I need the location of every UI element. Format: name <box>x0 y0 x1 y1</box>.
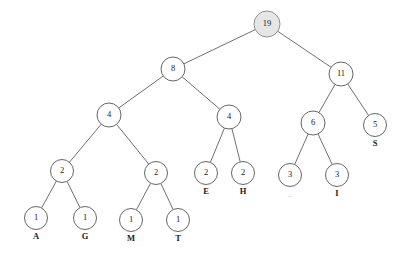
tree-edge-n8-n4a <box>119 76 164 108</box>
tree-edge-n4b-n2d <box>232 129 240 162</box>
node-symbol-n1b: G <box>82 231 89 241</box>
tree-node-n11: 11 <box>329 62 353 86</box>
tree-edge-n6-n3a <box>295 134 308 165</box>
tree-node-n1b: 1G <box>74 207 97 241</box>
tree-edge-n11-n6 <box>319 84 335 112</box>
node-symbol-n1c: M <box>127 233 135 243</box>
tree-node-n1c: 1M <box>120 209 143 243</box>
node-weight-n2c: 2 <box>204 167 208 177</box>
nodes-layer: 198114465S222E2H3_3I1A1G1M1T <box>25 11 387 243</box>
tree-edge-n2b-n1c <box>136 183 150 210</box>
tree-edge-n2b-n1d <box>161 183 173 209</box>
tree-node-n5: 5S <box>364 114 387 148</box>
tree-edge-n4a-n2b <box>117 124 149 164</box>
node-weight-n1c: 1 <box>129 214 133 224</box>
tree-edge-n8-n4b <box>182 77 220 109</box>
tree-node-n2c: 2E <box>195 162 218 196</box>
node-weight-n5: 5 <box>373 119 377 129</box>
tree-node-n19: 19 <box>254 11 280 37</box>
node-weight-n2a: 2 <box>60 165 64 175</box>
huffman-tree-diagram: 198114465S222E2H3_3I1A1G1M1T <box>0 0 412 263</box>
tree-edge-n4b-n2c <box>210 128 224 162</box>
node-weight-n3a: 3 <box>288 169 292 179</box>
node-symbol-n2c: E <box>203 186 209 196</box>
tree-node-n1d: 1T <box>167 209 190 243</box>
tree-node-n3a: 3_ <box>279 164 302 198</box>
node-symbol-n3b: I <box>335 188 339 198</box>
tree-edge-n19-n11 <box>278 31 331 67</box>
tree-edge-n11-n5 <box>348 84 369 115</box>
tree-node-n2b: 2 <box>145 162 168 185</box>
node-weight-n2b: 2 <box>154 167 158 177</box>
node-symbol-n3a: _ <box>287 188 293 198</box>
node-weight-n19: 19 <box>263 18 272 28</box>
node-weight-n11: 11 <box>337 68 345 78</box>
tree-edge-n4a-n2a <box>69 124 101 162</box>
node-weight-n2d: 2 <box>241 167 245 177</box>
tree-node-n2d: 2H <box>232 162 255 196</box>
node-symbol-n2d: H <box>240 186 247 196</box>
tree-node-n8: 8 <box>161 57 185 81</box>
node-weight-n8: 8 <box>171 63 175 73</box>
tree-node-n1a: 1A <box>25 207 48 241</box>
node-weight-n1a: 1 <box>34 212 38 222</box>
tree-edge-n6-n3b <box>318 134 332 165</box>
node-weight-n1b: 1 <box>83 212 87 222</box>
tree-canvas: 198114465S222E2H3_3I1A1G1M1T <box>0 0 412 263</box>
tree-node-n2a: 2 <box>51 160 74 183</box>
tree-edge-n19-n8 <box>184 30 255 64</box>
tree-edge-n2a-n1a <box>42 181 57 208</box>
tree-node-n3b: 3I <box>326 164 349 198</box>
tree-node-n6: 6 <box>301 111 325 135</box>
node-weight-n6: 6 <box>311 117 315 127</box>
tree-node-n4b: 4 <box>217 105 241 129</box>
tree-edge-n2a-n1b <box>67 181 80 207</box>
node-weight-n3b: 3 <box>335 169 339 179</box>
node-symbol-n1d: T <box>175 233 181 243</box>
node-symbol-n1a: A <box>33 231 40 241</box>
node-symbol-n5: S <box>373 138 378 148</box>
node-weight-n1d: 1 <box>176 214 180 224</box>
tree-node-n4a: 4 <box>97 103 121 127</box>
